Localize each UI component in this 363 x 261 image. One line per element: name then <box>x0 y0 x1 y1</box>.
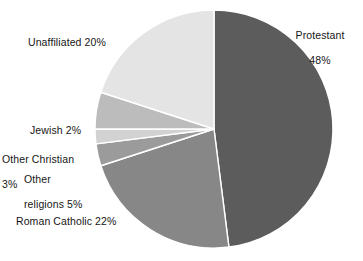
pie-label-protestant-line1: Protestant <box>281 29 359 42</box>
pie-label-protestant-line2: 48% <box>281 54 359 67</box>
pie-label-roman-catholic: Roman Catholic 22% <box>16 215 116 228</box>
pie-label-other-christian-first: Other Christian <box>2 153 74 166</box>
pie-label-other-christian-second: 3% <box>2 178 74 191</box>
pie-label-unaffiliated: Unaffiliated 20% <box>28 36 106 49</box>
pie-label-other-christian: Other Christian 3% <box>2 140 74 203</box>
pie-label-jewish: Jewish 2% <box>30 124 81 137</box>
pie-chart: Protestant 48% Unaffiliated 20% Other Ot… <box>0 0 363 261</box>
pie-label-protestant: Protestant 48% <box>281 16 359 79</box>
